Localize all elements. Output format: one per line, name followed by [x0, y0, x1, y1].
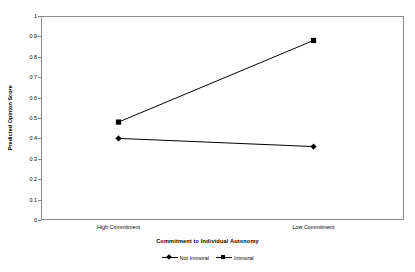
legend-marker-square: [221, 255, 225, 259]
legend-diamond-icon: [162, 254, 178, 261]
chart-container: Predicted Opinion Score 10.90.80.70.60.5…: [0, 0, 415, 272]
series-layer: [0, 0, 415, 272]
data-point-square: [311, 38, 316, 43]
data-point-diamond: [310, 143, 316, 149]
legend-square-icon: [216, 254, 232, 261]
legend-label: Immoral: [234, 255, 253, 261]
series-line: [119, 40, 314, 122]
chart-legend: Not ImmoralImmoral: [0, 254, 415, 261]
legend-entry: Not Immoral: [162, 254, 209, 261]
legend-label: Not Immoral: [180, 255, 209, 261]
series-line: [119, 138, 314, 146]
data-point-square: [116, 119, 121, 124]
legend-marker-diamond: [166, 254, 172, 260]
legend-entry: Immoral: [216, 254, 253, 261]
data-point-diamond: [115, 135, 121, 141]
